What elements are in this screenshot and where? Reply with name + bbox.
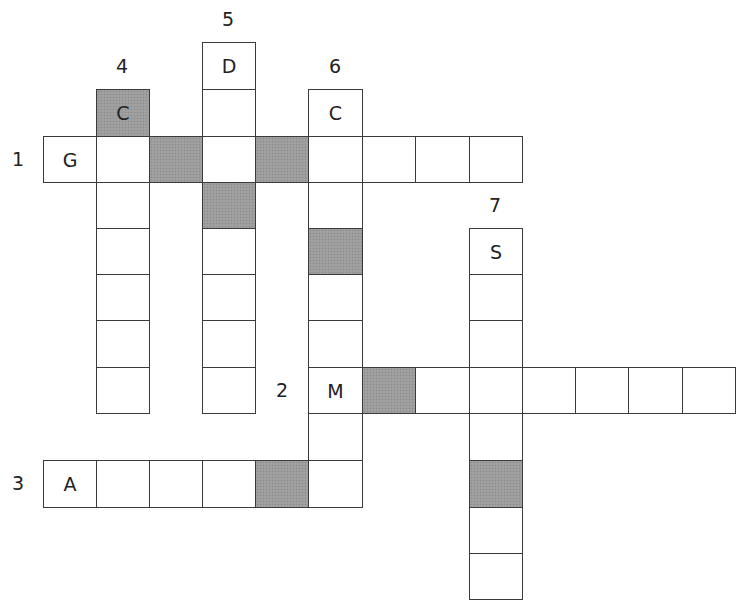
- crossword-cell[interactable]: [96, 182, 150, 229]
- crossword-cell[interactable]: [575, 367, 629, 414]
- shaded-cell[interactable]: [362, 367, 416, 414]
- crossword-cell[interactable]: [308, 136, 363, 183]
- crossword-cell[interactable]: [308, 182, 363, 229]
- crossword-cell[interactable]: [96, 274, 150, 321]
- clue-number-7-down: 7: [489, 196, 501, 215]
- crossword-cell[interactable]: [469, 136, 523, 183]
- crossword-cell[interactable]: [362, 136, 416, 183]
- crossword-cell[interactable]: [415, 136, 470, 183]
- crossword-cell[interactable]: [96, 320, 150, 368]
- crossword-cell[interactable]: [415, 367, 470, 414]
- crossword-cell[interactable]: [469, 413, 523, 461]
- crossword-cell[interactable]: C: [308, 89, 363, 137]
- shaded-cell[interactable]: C: [96, 89, 150, 137]
- crossword-cell[interactable]: [202, 367, 256, 414]
- crossword-cell[interactable]: S: [469, 228, 523, 275]
- crossword-cell[interactable]: G: [43, 136, 97, 183]
- crossword-cell[interactable]: [96, 228, 150, 275]
- shaded-cell[interactable]: [308, 228, 363, 275]
- crossword-cell[interactable]: [469, 553, 523, 600]
- clue-number-3-across: 3: [12, 474, 24, 493]
- crossword-cell[interactable]: [202, 274, 256, 321]
- crossword-cell[interactable]: [469, 367, 523, 414]
- crossword-cell[interactable]: [202, 460, 256, 508]
- shaded-cell[interactable]: [255, 136, 309, 183]
- crossword-cell[interactable]: [308, 320, 363, 368]
- crossword-cell[interactable]: [522, 367, 576, 414]
- shaded-cell[interactable]: [255, 460, 309, 508]
- shaded-cell[interactable]: [202, 182, 256, 229]
- crossword-cell[interactable]: [308, 460, 363, 508]
- crossword-cell[interactable]: M: [308, 367, 363, 414]
- crossword-cell[interactable]: [96, 136, 150, 183]
- crossword-cell[interactable]: [202, 136, 256, 183]
- crossword-cell[interactable]: [469, 320, 523, 368]
- clue-number-2-across: 2: [276, 381, 288, 400]
- shaded-cell[interactable]: [469, 460, 523, 508]
- crossword-cell[interactable]: [202, 89, 256, 137]
- crossword-cell[interactable]: [469, 274, 523, 321]
- clue-number-1-across: 1: [12, 150, 24, 169]
- crossword-cell[interactable]: [469, 507, 523, 554]
- crossword-cell[interactable]: D: [202, 42, 256, 90]
- crossword-cell[interactable]: [202, 320, 256, 368]
- shaded-cell[interactable]: [149, 136, 203, 183]
- crossword-cell[interactable]: [149, 460, 203, 508]
- crossword-cell[interactable]: [682, 367, 736, 414]
- clue-number-4-down: 4: [116, 57, 128, 76]
- crossword-cell[interactable]: [96, 367, 150, 414]
- clue-number-6-down: 6: [329, 57, 341, 76]
- clue-number-5-down: 5: [222, 10, 234, 29]
- crossword-cell[interactable]: [202, 228, 256, 275]
- crossword-cell[interactable]: [308, 274, 363, 321]
- crossword-cell[interactable]: [96, 460, 150, 508]
- crossword-cell[interactable]: [628, 367, 683, 414]
- crossword-cell[interactable]: [308, 413, 363, 461]
- crossword-cell[interactable]: A: [43, 460, 97, 508]
